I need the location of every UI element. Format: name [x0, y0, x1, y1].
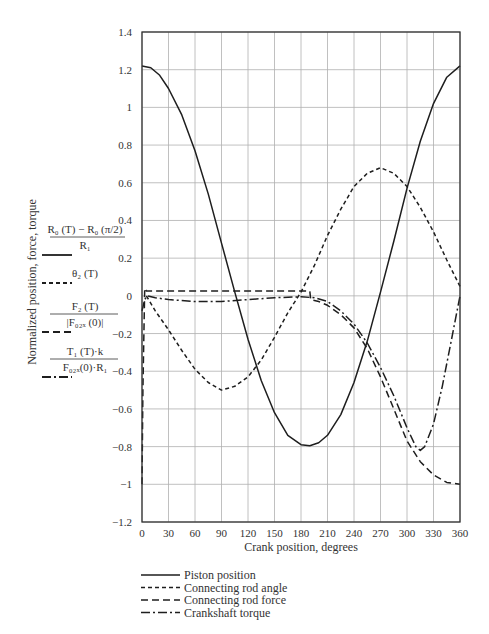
side-legend-numerator: θ₂ (T): [72, 267, 98, 280]
y-tick-label: −0.8: [112, 441, 132, 453]
side-legend-denominator: |F₀₂ₓ (0)|: [67, 316, 104, 329]
grid-lines: [142, 32, 460, 522]
y-tick-label: −0.4: [112, 365, 132, 377]
x-tick-label: 150: [266, 527, 283, 539]
y-tick-label: 1: [127, 101, 133, 113]
chart: −1.2−1−0.8−0.6−0.4−0.200.20.40.60.811.21…: [0, 0, 489, 634]
x-tick-label: 60: [190, 527, 202, 539]
y-tick-label: 1.2: [118, 64, 132, 76]
legend-label: Crankshaft torque: [184, 606, 270, 620]
x-tick-label: 360: [452, 527, 469, 539]
x-tick-label: 330: [425, 527, 442, 539]
y-axis-ticks: −1.2−1−0.8−0.6−0.4−0.200.20.40.60.811.21…: [112, 26, 132, 528]
series-connecting-rod-angle: [146, 168, 460, 390]
y-axis-label: Normalized position, force, torque: [25, 199, 39, 365]
y-tick-label: 0.2: [118, 252, 132, 264]
x-tick-label: 210: [319, 527, 336, 539]
x-tick-label: 240: [346, 527, 363, 539]
legend: Piston positionConnecting rod angleConne…: [141, 568, 287, 620]
y-tick-label: −1: [120, 478, 132, 490]
y-tick-label: 1.4: [118, 26, 132, 38]
side-legend: R₀ (T) − R₀ (π/2)R₁θ₂ (T)F₂ (T)|F₀₂ₓ (0)…: [42, 223, 125, 377]
x-tick-label: 120: [240, 527, 257, 539]
x-tick-label: 270: [372, 527, 389, 539]
y-tick-label: −0.2: [112, 328, 132, 340]
x-tick-label: 300: [399, 527, 416, 539]
side-legend-numerator: F₂ (T): [72, 300, 99, 313]
y-tick-label: 0: [127, 290, 133, 302]
side-legend-denominator: F₀₂ₓ(0)·R₁: [63, 361, 108, 374]
x-tick-label: 0: [139, 527, 145, 539]
x-tick-label: 180: [293, 527, 310, 539]
y-tick-label: 0.8: [118, 139, 132, 151]
x-axis-label: Crank position, degrees: [244, 540, 358, 554]
y-tick-label: −1.2: [112, 516, 132, 528]
x-tick-label: 90: [216, 527, 228, 539]
side-legend-numerator: R₀ (T) − R₀ (π/2): [47, 223, 122, 236]
x-tick-label: 30: [163, 527, 175, 539]
side-legend-numerator: T₁ (T)·k: [67, 345, 104, 358]
y-tick-label: −0.6: [112, 403, 132, 415]
side-legend-denominator: R₁: [79, 239, 90, 251]
x-axis-ticks: 0306090120150180210240270300330360: [139, 527, 469, 539]
y-tick-label: 0.6: [118, 177, 132, 189]
